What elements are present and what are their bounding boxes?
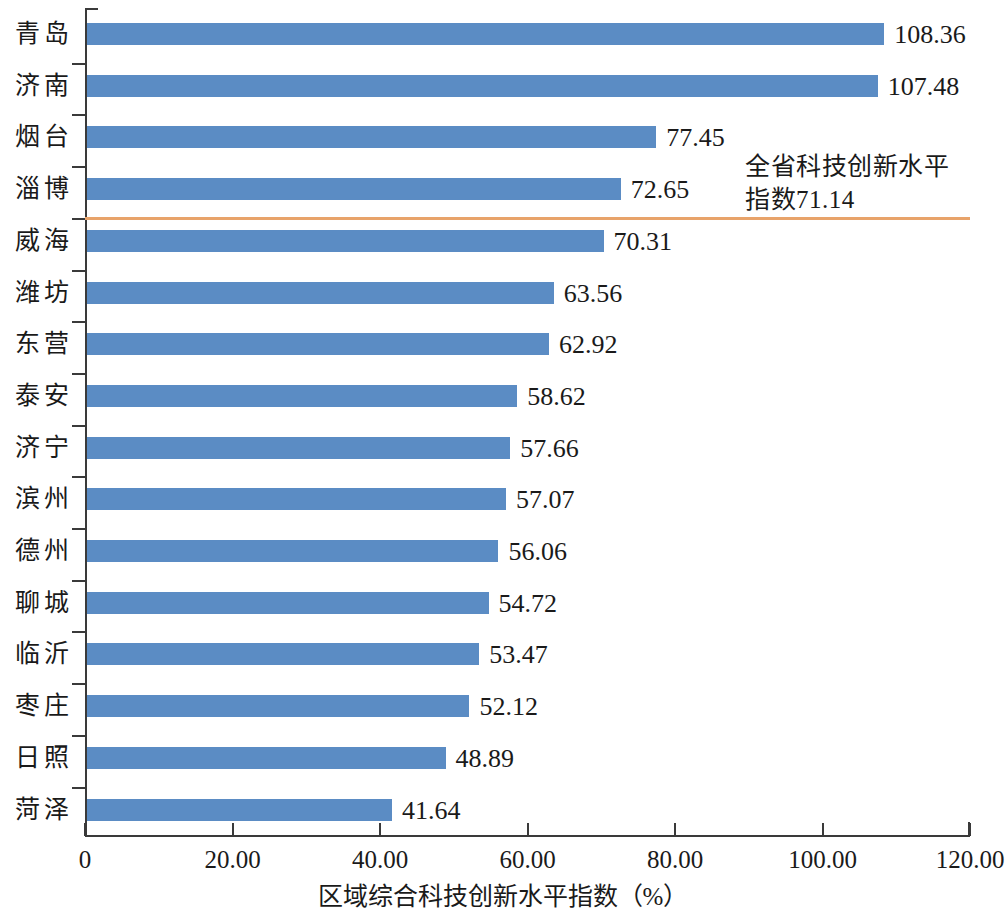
- bar: [87, 592, 489, 614]
- category-label: 东营: [0, 331, 73, 357]
- category-label: 泰安: [0, 383, 73, 409]
- bar-value-label: 52.12: [479, 694, 538, 720]
- bar: [87, 75, 878, 97]
- bar-value-label: 108.36: [894, 22, 966, 48]
- category-label: 威海: [0, 228, 73, 254]
- bar-row: 菏泽41.64: [0, 784, 1006, 836]
- bar-chart: 020.0040.0060.0080.00100.00120.00 青岛108.…: [0, 0, 1006, 918]
- x-axis-tick-label: 20.00: [163, 845, 303, 875]
- bar: [87, 488, 506, 510]
- bar-row: 济宁57.66: [0, 422, 1006, 474]
- bar: [87, 282, 554, 304]
- bar: [87, 695, 469, 717]
- category-label: 菏泽: [0, 797, 73, 823]
- x-axis-tick-label: 60.00: [458, 845, 598, 875]
- bar: [87, 437, 510, 459]
- bar-value-label: 56.06: [508, 539, 567, 565]
- bar-value-label: 48.89: [456, 746, 515, 772]
- x-axis-tick-label: 40.00: [310, 845, 450, 875]
- bar: [87, 747, 446, 769]
- bar: [87, 333, 549, 355]
- bar: [87, 643, 479, 665]
- bar-value-label: 41.64: [402, 798, 461, 824]
- bar-row: 枣庄52.12: [0, 680, 1006, 732]
- bar: [87, 23, 884, 45]
- bar-value-label: 107.48: [888, 74, 960, 100]
- bar-value-label: 57.66: [520, 436, 579, 462]
- bar-value-label: 54.72: [499, 591, 558, 617]
- category-label: 临沂: [0, 641, 73, 667]
- category-label: 日照: [0, 745, 73, 771]
- bar-row: 济南107.48: [0, 60, 1006, 112]
- category-label: 枣庄: [0, 693, 73, 719]
- bar-row: 德州56.06: [0, 525, 1006, 577]
- category-label: 潍坊: [0, 280, 73, 306]
- bar-row: 临沂53.47: [0, 628, 1006, 680]
- bar-row: 日照48.89: [0, 732, 1006, 784]
- category-label: 滨州: [0, 486, 73, 512]
- bar-row: 滨州57.07: [0, 473, 1006, 525]
- bar: [87, 126, 656, 148]
- x-axis-title: 区域综合科技创新水平指数（%）: [0, 882, 1006, 912]
- bar-value-label: 53.47: [489, 642, 548, 668]
- x-axis-tick-label: 100.00: [753, 845, 893, 875]
- category-label: 济南: [0, 73, 73, 99]
- bar: [87, 385, 517, 407]
- bar-row: 泰安58.62: [0, 370, 1006, 422]
- bar: [87, 178, 621, 200]
- bar-row: 潍坊63.56: [0, 267, 1006, 319]
- category-label: 聊城: [0, 590, 73, 616]
- x-axis-tick-label: 0: [15, 845, 155, 875]
- bar-value-label: 57.07: [516, 487, 575, 513]
- x-axis-tick-label: 80.00: [605, 845, 745, 875]
- bar-value-label: 63.56: [564, 281, 623, 307]
- bar-value-label: 70.31: [614, 229, 673, 255]
- bar: [87, 540, 498, 562]
- bar: [87, 799, 392, 821]
- x-axis-tick-label: 120.00: [900, 845, 1006, 875]
- bar-value-label: 77.45: [666, 125, 725, 151]
- bar-value-label: 62.92: [559, 332, 618, 358]
- bar-row: 东营62.92: [0, 318, 1006, 370]
- reference-line-annotation: 全省科技创新水平 指数71.14: [745, 150, 949, 216]
- bar-value-label: 58.62: [527, 384, 586, 410]
- category-label: 淄博: [0, 176, 73, 202]
- bar: [87, 230, 604, 252]
- bar-row: 威海70.31: [0, 215, 1006, 267]
- reference-line: [85, 217, 970, 220]
- bar-row: 青岛108.36: [0, 8, 1006, 60]
- category-label: 德州: [0, 538, 73, 564]
- bar-value-label: 72.65: [631, 177, 690, 203]
- category-label: 济宁: [0, 435, 73, 461]
- category-label: 青岛: [0, 21, 73, 47]
- bar-row: 聊城54.72: [0, 577, 1006, 629]
- category-label: 烟台: [0, 124, 73, 150]
